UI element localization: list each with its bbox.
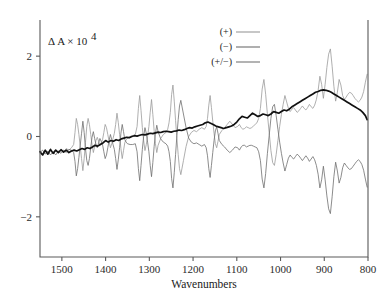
x-tick-label: 1500 [51, 263, 74, 275]
x-axis-title: Wavenumbers [171, 278, 237, 290]
x-tick-label: 1000 [270, 263, 293, 275]
y-axis-label-exponent: 4 [91, 30, 97, 42]
legend-label-3: (+/−) [211, 56, 232, 68]
x-tick-label: 1300 [138, 263, 161, 275]
x-tick-label: 1100 [226, 263, 248, 275]
vcd-spectrum-figure: 150014001300120011001000900800 20−2 Wave… [0, 0, 392, 304]
y-tick-label: −2 [20, 211, 32, 223]
x-tick-label: 900 [316, 263, 333, 275]
x-tick-label: 800 [360, 263, 377, 275]
legend-label-2: (−) [220, 41, 232, 53]
x-tick-label: 1400 [95, 263, 118, 275]
x-tick-label: 1200 [182, 263, 205, 275]
y-tick-label: 2 [27, 50, 33, 62]
chart-canvas: 150014001300120011001000900800 20−2 Wave… [0, 0, 392, 304]
legend-label-1: (+) [220, 26, 232, 38]
y-axis-label-text: Δ A × 10 [48, 35, 88, 47]
y-tick-label: 0 [27, 130, 33, 142]
